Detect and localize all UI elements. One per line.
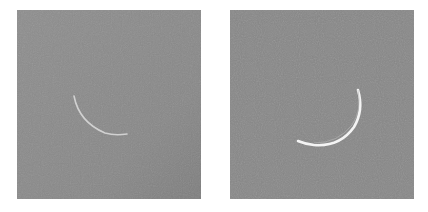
crescent-image-left [17, 10, 201, 199]
moon-photo-right [230, 10, 414, 199]
crescent-image-right [230, 10, 414, 199]
moon-photo-left [17, 10, 201, 199]
